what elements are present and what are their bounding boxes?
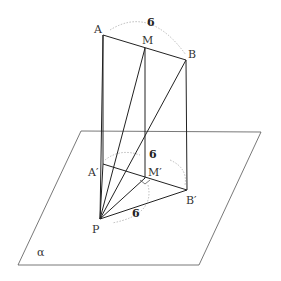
plane-alpha [18,131,261,265]
geometry-figure: A M B A′ M′ B′ P α 6 6 6 [0,0,281,281]
figure-canvas: A M B A′ M′ B′ P α 6 6 6 [0,0,281,281]
segment-BB-prime [186,60,187,190]
label-M-prime: M′ [148,166,162,179]
label-B: B [188,48,196,61]
length-PB-prime: 6 [132,207,140,220]
label-P: P [92,223,100,236]
label-M: M [142,34,153,47]
segment-PM [100,48,145,219]
arc-B-prime [170,160,185,185]
length-AB: 6 [147,16,155,29]
length-MM-prime: 6 [149,148,157,161]
label-alpha: α [37,246,45,259]
label-A-prime: A′ [87,166,99,179]
arc-A-prime [105,152,140,160]
label-A: A [93,23,103,36]
label-B-prime: B′ [186,194,197,207]
